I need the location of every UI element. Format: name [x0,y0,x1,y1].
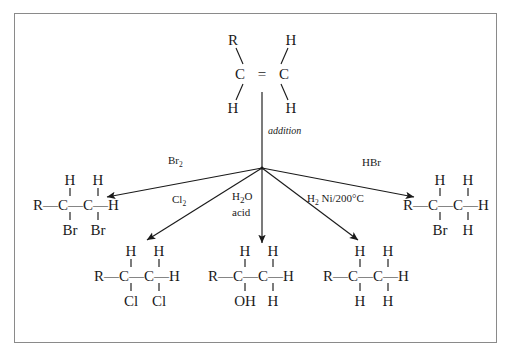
hydrobromination-backbone: R—C—C—H [403,197,489,214]
hydrobromination-bottom-left: Br [433,222,448,239]
hydrobromination-bonds [0,0,511,362]
hydrobromination-bottom-right: H [463,222,474,239]
